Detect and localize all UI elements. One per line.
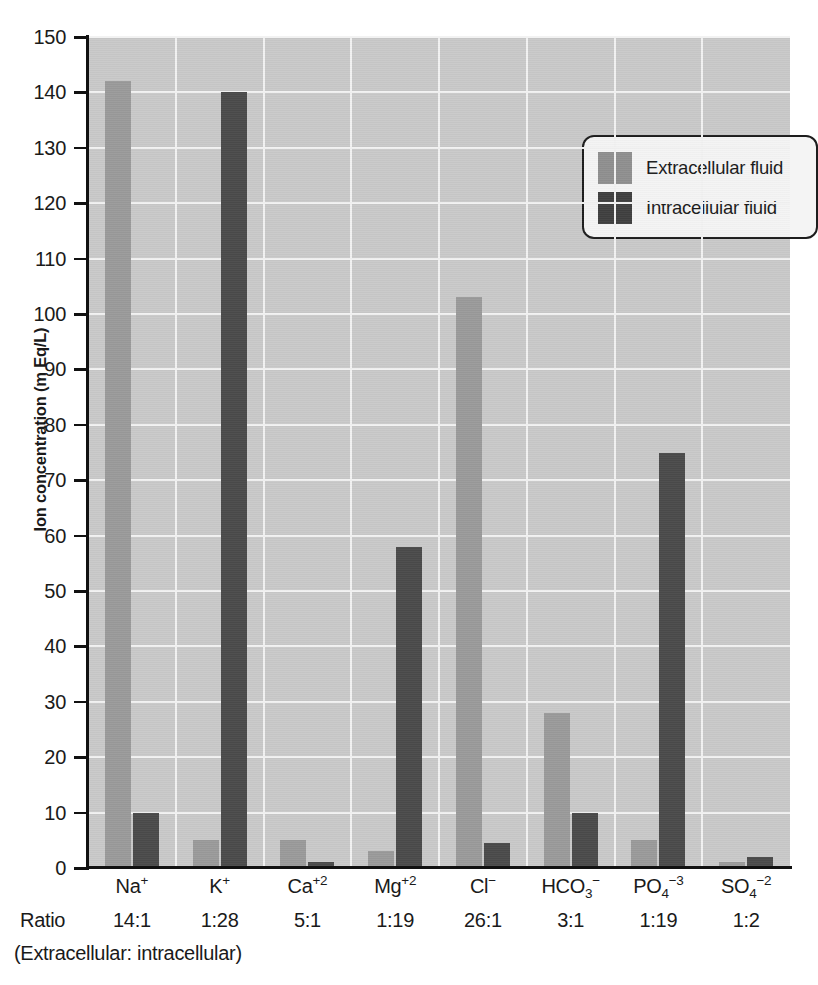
y-axis-tick: [74, 535, 88, 538]
gridline-vertical: [263, 37, 265, 868]
y-axis-tick-label: 120: [6, 193, 66, 213]
bar-intracellular: [572, 813, 598, 868]
y-axis-tick-label: 70: [6, 470, 66, 490]
y-axis-tick: [74, 867, 88, 870]
bar-extracellular: [105, 81, 131, 868]
x-axis-ratio-label: 1:28: [176, 908, 264, 932]
plot-area: Extracellular fluid Intracellular fluid: [88, 37, 790, 868]
y-axis-tick-label: 30: [6, 692, 66, 712]
x-axis-ratio-label: 14:1: [88, 908, 176, 932]
legend-item-extracellular: Extracellular fluid: [598, 149, 816, 187]
gridline-vertical: [438, 37, 440, 868]
y-axis-tick-label: 110: [6, 249, 66, 269]
ratio-row-label: Ratio: [20, 908, 65, 932]
x-axis-category-label: Cl−: [439, 874, 527, 898]
y-axis-tick: [74, 479, 88, 482]
y-axis-tick: [74, 590, 88, 593]
y-axis-tick-label: 10: [6, 803, 66, 823]
legend-item-intracellular: Intracellular fluid: [598, 189, 816, 227]
y-axis-tick: [74, 313, 88, 316]
bar-extracellular: [280, 840, 306, 868]
bar-intracellular: [484, 843, 510, 868]
gridline-vertical: [175, 37, 177, 868]
bar-extracellular: [631, 840, 657, 868]
y-axis-tick: [74, 147, 88, 150]
y-axis-tick: [74, 36, 88, 39]
y-axis-tick: [74, 756, 88, 759]
y-axis-tick: [74, 645, 88, 648]
y-axis-tick: [74, 258, 88, 261]
legend-label-intracellular: Intracellular fluid: [646, 197, 777, 219]
y-axis-tick-label: 40: [6, 636, 66, 656]
y-axis-line: [86, 35, 89, 870]
x-axis-ratio-label: 5:1: [264, 908, 352, 932]
y-axis-tick: [74, 812, 88, 815]
y-axis-tick: [74, 368, 88, 371]
gridline-vertical: [350, 37, 352, 868]
y-axis-tick-label: 90: [6, 359, 66, 379]
y-axis-tick-label: 150: [6, 27, 66, 47]
y-axis-tick-label: 60: [6, 526, 66, 546]
y-axis-tick-label: 20: [6, 747, 66, 767]
y-axis-tick: [74, 202, 88, 205]
x-axis-ratio-label: 26:1: [439, 908, 527, 932]
x-axis-category-label: Na+: [88, 874, 176, 898]
gridline-vertical: [614, 37, 616, 868]
legend-label-extracellular: Extracellular fluid: [646, 157, 783, 179]
gridline-vertical: [701, 37, 703, 868]
y-axis-tick: [74, 701, 88, 704]
x-axis-category-label: Ca+2: [264, 874, 352, 898]
x-axis-ratio-label: 1:19: [351, 908, 439, 932]
y-axis-tick-label: 80: [6, 415, 66, 435]
x-axis-ratio-label: 1:19: [615, 908, 703, 932]
x-axis-category-label: SO4−2: [702, 874, 790, 898]
bar-intracellular: [221, 92, 247, 868]
x-axis-category-label: K+: [176, 874, 264, 898]
y-axis-tick-label: 0: [6, 858, 66, 878]
x-axis-ratio-label: 3:1: [527, 908, 615, 932]
y-axis-tick: [74, 424, 88, 427]
bar-intracellular: [396, 547, 422, 868]
y-axis-tick-label: 50: [6, 581, 66, 601]
y-axis-tick: [74, 91, 88, 94]
bar-intracellular: [659, 453, 685, 869]
ratio-caption: (Extracellular: intracellular): [14, 941, 242, 965]
gridline-vertical: [526, 37, 528, 868]
x-axis-category-label: HCO3−: [527, 874, 615, 898]
bar-extracellular: [456, 297, 482, 868]
x-axis-line: [86, 866, 792, 869]
x-axis-category-label: PO4−3: [615, 874, 703, 898]
bar-extracellular: [193, 840, 219, 868]
legend: Extracellular fluid Intracellular fluid: [582, 135, 818, 239]
y-axis-tick-label: 130: [6, 138, 66, 158]
bar-extracellular: [544, 713, 570, 868]
x-axis-category-label: Mg+2: [351, 874, 439, 898]
bar-intracellular: [133, 813, 159, 868]
x-axis-ratio-label: 1:2: [702, 908, 790, 932]
y-axis-tick-label: 100: [6, 304, 66, 324]
y-axis-tick-label: 140: [6, 82, 66, 102]
